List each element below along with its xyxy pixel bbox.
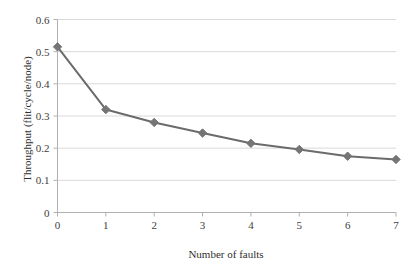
x-tick-label: 3 xyxy=(200,219,206,231)
x-tick-label: 4 xyxy=(248,219,254,231)
line-chart: 00.10.20.30.40.50.6 01234567 Number of f… xyxy=(0,0,414,266)
y-axis-title: Throughput (flit/cycle/node) xyxy=(21,56,34,182)
y-tick-label: 0.4 xyxy=(36,78,50,90)
y-tick-label: 0.6 xyxy=(36,14,50,26)
y-tick-label: 0.3 xyxy=(36,110,50,122)
y-tick-label: 0.5 xyxy=(36,46,50,58)
x-tick-label: 1 xyxy=(103,219,109,231)
y-tick-label: 0.1 xyxy=(36,174,50,186)
chart-figure: 00.10.20.30.40.50.6 01234567 Number of f… xyxy=(0,0,414,266)
x-tick-label: 5 xyxy=(297,219,303,231)
x-tick-label: 2 xyxy=(151,219,157,231)
x-tick-label: 6 xyxy=(345,219,351,231)
y-tick-label: 0.2 xyxy=(36,142,50,154)
x-axis-title: Number of faults xyxy=(188,248,263,260)
y-tick-label: 0 xyxy=(44,207,50,219)
x-tick-label: 7 xyxy=(393,219,399,231)
x-tick-label: 0 xyxy=(55,219,61,231)
